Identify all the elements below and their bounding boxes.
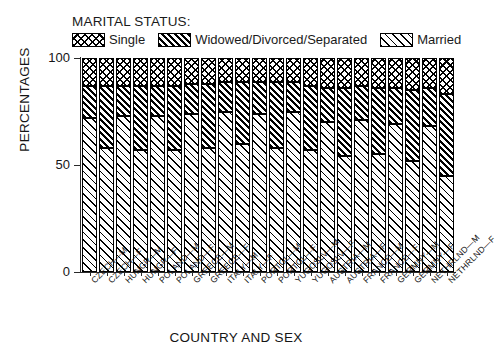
- bar-segment-single: [218, 58, 233, 82]
- bar-segment-widowed: [99, 86, 114, 148]
- bar-segment-single: [337, 58, 352, 88]
- bar-segment-single: [354, 58, 369, 86]
- bar-segment-single: [99, 58, 114, 86]
- bar-segment-widowed: [116, 86, 131, 116]
- bar-segment-married: [252, 114, 267, 272]
- bar-segment-single: [388, 58, 403, 88]
- bar-stack[interactable]: [133, 58, 148, 272]
- legend-label-widowed: Widowed/Divorced/Separated: [195, 33, 367, 47]
- bar-stack[interactable]: [439, 58, 454, 272]
- plot-area: [81, 58, 455, 272]
- legend-entry-single: Single: [72, 33, 145, 47]
- bar-segment-widowed: [320, 88, 335, 122]
- bar-segment-single: [405, 58, 420, 90]
- bar-segment-widowed: [286, 82, 301, 112]
- bar-segment-widowed: [133, 86, 148, 150]
- bar-segment-single: [286, 58, 301, 82]
- legend: Single Widowed/Divorced/Separated Marrie…: [72, 33, 461, 47]
- bar-stack[interactable]: [269, 58, 284, 272]
- bar-stack[interactable]: [82, 58, 97, 272]
- bar-stack[interactable]: [150, 58, 165, 272]
- bar-stack[interactable]: [235, 58, 250, 272]
- bar-segment-widowed: [252, 82, 267, 114]
- bar-segment-widowed: [184, 84, 199, 114]
- legend-entry-widowed: Widowed/Divorced/Separated: [158, 33, 367, 47]
- y-axis-label-wrap: PERCENTAGES: [0, 0, 40, 300]
- bar-segment-widowed: [303, 86, 318, 150]
- bar-segment-single: [320, 58, 335, 88]
- bar-segment-widowed: [269, 82, 284, 148]
- legend-swatch-married-icon: [380, 33, 413, 47]
- bar-segment-single: [269, 58, 284, 82]
- bar-segment-single: [82, 58, 97, 86]
- bar-stack[interactable]: [99, 58, 114, 272]
- legend-label-married: Married: [417, 33, 461, 47]
- bar-segment-single: [371, 58, 386, 88]
- bar-stack[interactable]: [388, 58, 403, 272]
- bar-segment-widowed: [405, 90, 420, 161]
- bar-stack[interactable]: [201, 58, 216, 272]
- bar-segment-widowed: [167, 86, 182, 150]
- bar-segment-single: [303, 58, 318, 86]
- y-tick: [74, 272, 80, 273]
- legend-swatch-widowed-icon: [158, 33, 191, 47]
- legend-title: MARITAL STATUS:: [72, 14, 191, 29]
- bar-segment-widowed: [235, 82, 250, 144]
- bar-segment-widowed: [354, 86, 369, 120]
- y-axis-label: PERCENTAGES: [17, 0, 32, 200]
- bar-stack[interactable]: [405, 58, 420, 272]
- bar-segment-single: [133, 58, 148, 86]
- bar-segment-married: [82, 118, 97, 272]
- bar-segment-single: [167, 58, 182, 86]
- bar-segment-widowed: [201, 84, 216, 148]
- bar-stack[interactable]: [167, 58, 182, 272]
- bar-stack[interactable]: [218, 58, 233, 272]
- bar-segment-single: [184, 58, 199, 84]
- bar-stack[interactable]: [252, 58, 267, 272]
- bar-segment-widowed: [439, 94, 454, 175]
- bar-segment-single: [116, 58, 131, 86]
- bar-segment-single: [439, 58, 454, 94]
- legend-label-single: Single: [109, 33, 145, 47]
- y-tick: [74, 58, 80, 59]
- x-axis-label: COUNTRY AND SEX: [0, 330, 472, 345]
- bar-stack[interactable]: [116, 58, 131, 272]
- bar-segment-widowed: [388, 88, 403, 124]
- bar-segment-widowed: [422, 88, 437, 127]
- bar-stack[interactable]: [371, 58, 386, 272]
- bar-stack[interactable]: [286, 58, 301, 272]
- y-tick: [74, 165, 80, 166]
- bar-segment-widowed: [82, 86, 97, 118]
- bar-stack[interactable]: [303, 58, 318, 272]
- bar-segment-widowed: [150, 86, 165, 116]
- legend-entry-married: Married: [380, 33, 461, 47]
- bar-segment-single: [150, 58, 165, 86]
- bar-segment-widowed: [218, 82, 233, 112]
- bar-segment-widowed: [337, 88, 352, 156]
- bar-segment-single: [422, 58, 437, 88]
- bar-segment-single: [252, 58, 267, 82]
- bar-stack[interactable]: [184, 58, 199, 272]
- bar-segment-single: [235, 58, 250, 82]
- legend-swatch-single-icon: [72, 33, 105, 47]
- bar-segment-widowed: [371, 88, 386, 154]
- bar-segment-single: [201, 58, 216, 84]
